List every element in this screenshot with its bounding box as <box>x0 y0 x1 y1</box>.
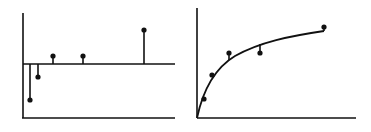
data-point <box>226 50 231 55</box>
data-point <box>50 53 55 58</box>
data-point <box>141 27 146 32</box>
data-point <box>209 72 214 77</box>
data-point <box>35 74 40 79</box>
data-point <box>201 96 206 101</box>
residual-stem-plot <box>22 13 175 118</box>
data-point <box>27 97 32 102</box>
data-point <box>257 50 262 55</box>
data-point <box>80 53 85 58</box>
data-point <box>321 24 326 29</box>
fitted-curve-plot <box>197 8 356 118</box>
figure <box>0 0 371 132</box>
